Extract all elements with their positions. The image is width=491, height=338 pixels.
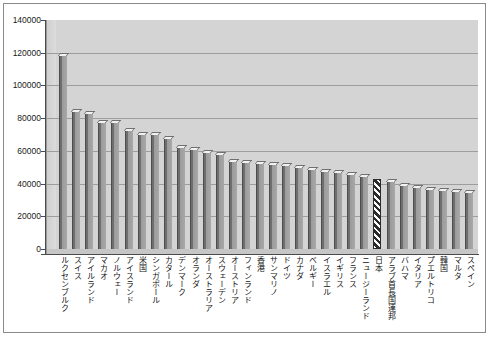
- bar-cap: [333, 170, 345, 173]
- x-tick-label: フランス: [345, 256, 355, 288]
- bar-cap: [307, 167, 319, 170]
- bar: [373, 179, 381, 249]
- bar-cap: [97, 120, 109, 123]
- bar: [321, 172, 329, 249]
- x-tick-label: フィンランド: [240, 256, 250, 304]
- bar-cap: [267, 162, 279, 165]
- bar: [151, 135, 159, 249]
- bar-cap: [411, 185, 423, 188]
- bar-cap: [176, 145, 188, 148]
- x-tick-label: イタリア: [411, 256, 421, 288]
- x-tick-label: アイスランド: [123, 256, 133, 304]
- x-tick-label: 香港: [254, 256, 264, 272]
- bar: [347, 175, 355, 249]
- bar-cap: [123, 128, 135, 131]
- bar-cap: [110, 120, 122, 123]
- bar-cap: [320, 169, 332, 172]
- bar-cap: [346, 172, 358, 175]
- bar: [334, 173, 342, 249]
- bar-cap: [71, 109, 83, 112]
- x-tick-label: ニュージーランド: [358, 256, 368, 320]
- x-tick-label: バハマ: [398, 256, 408, 280]
- x-tick-label: スペイン: [463, 256, 473, 288]
- x-tick-label: オーストリア: [227, 256, 237, 304]
- x-tick-label: オランダ: [188, 256, 198, 288]
- bar-cap: [202, 150, 214, 153]
- x-tick-label: カナダ: [293, 256, 303, 280]
- x-tick-label: イスラエル: [319, 256, 329, 296]
- y-tick-label: 40000: [17, 180, 41, 188]
- bar: [125, 131, 133, 249]
- bar: [308, 170, 316, 249]
- y-axis-line: [45, 20, 46, 255]
- bar: [387, 182, 395, 249]
- bar-cap: [58, 53, 70, 56]
- x-tick-label: スイス: [70, 256, 80, 280]
- bar-cap: [228, 159, 240, 162]
- bar-cap: [254, 161, 266, 164]
- bar: [177, 148, 185, 249]
- bar-cap: [241, 160, 253, 163]
- bar: [203, 153, 211, 249]
- x-tick-label: スウェーデン: [214, 256, 224, 304]
- y-tick-label: 120000: [13, 49, 41, 57]
- bar-cap: [398, 183, 410, 186]
- bar: [59, 56, 67, 249]
- bar: [242, 163, 250, 249]
- bar-cap: [464, 190, 476, 193]
- bar-cap: [294, 165, 306, 168]
- x-tick-label: 韓国: [437, 256, 447, 272]
- x-tick-label: シンガポール: [149, 256, 159, 304]
- x-tick-label: イギリス: [332, 256, 342, 288]
- bar-cap: [451, 189, 463, 192]
- bar-cap: [280, 163, 292, 166]
- bar: [282, 166, 290, 249]
- bar-cap: [163, 136, 175, 139]
- bar: [413, 188, 421, 249]
- bar: [72, 112, 80, 249]
- x-tick-label: オーストラリア: [201, 256, 211, 312]
- bar-cap: [215, 152, 227, 155]
- y-axis-ticks: 140000120000100000800006000040000200000: [0, 0, 41, 338]
- x-axis-line: [41, 254, 479, 255]
- x-tick-label: アイルランド: [83, 256, 93, 304]
- bar-cap: [84, 111, 96, 114]
- bar: [426, 190, 434, 249]
- bar-cap: [136, 132, 148, 135]
- plot-area: [46, 20, 478, 254]
- x-tick-label: 米国: [136, 256, 146, 272]
- x-tick-label: ノルウェー: [109, 256, 119, 296]
- bar: [400, 186, 408, 249]
- x-tick-label: ドイツ: [280, 256, 290, 280]
- x-tick-label: サンマリノ: [267, 256, 277, 296]
- bar: [360, 177, 368, 249]
- y-tick-label: 60000: [17, 147, 41, 155]
- bar: [138, 135, 146, 250]
- bar-cap: [438, 188, 450, 191]
- x-tick-label: 日本: [371, 256, 381, 272]
- bar-cap: [189, 147, 201, 150]
- bar: [295, 168, 303, 249]
- bar: [439, 191, 447, 249]
- x-tick-label: アラブ首長国連邦: [385, 256, 395, 320]
- x-tick-label: マカオ: [96, 256, 106, 280]
- x-tick-label: ルクセンブルク: [57, 256, 67, 312]
- x-tick-label: カタール: [162, 256, 172, 288]
- bar: [85, 114, 93, 249]
- x-tick-label: マルタ: [450, 256, 460, 280]
- bar-chart: 140000120000100000800006000040000200000 …: [0, 0, 491, 338]
- y-tick-label: 140000: [13, 16, 41, 24]
- bar: [452, 192, 460, 249]
- x-tick-label: プエルトリコ: [424, 256, 434, 304]
- x-tick-label: デンマーク: [175, 256, 185, 296]
- bars-layer: [47, 20, 478, 254]
- bar-cap: [385, 179, 397, 182]
- bar: [269, 165, 277, 249]
- bar: [111, 123, 119, 249]
- bar-cap: [425, 187, 437, 190]
- bar-cap: [149, 132, 161, 135]
- bar: [164, 139, 172, 249]
- bar: [229, 162, 237, 250]
- bar: [98, 123, 106, 249]
- y-tick-label: 100000: [13, 81, 41, 89]
